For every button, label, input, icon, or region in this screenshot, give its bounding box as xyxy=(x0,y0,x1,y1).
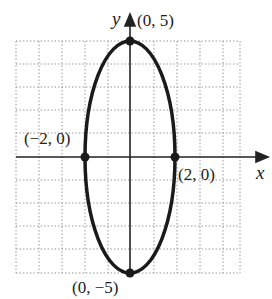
point-label-top: (0, 5) xyxy=(137,12,174,29)
x-axis-label: x xyxy=(256,163,264,182)
ellipse-plot xyxy=(0,0,272,299)
point-label-bottom: (0, −5) xyxy=(72,279,118,296)
point-label-left: (−2, 0) xyxy=(24,130,70,147)
point-label-right: (2, 0) xyxy=(178,166,215,183)
y-axis-label: y xyxy=(112,9,120,28)
